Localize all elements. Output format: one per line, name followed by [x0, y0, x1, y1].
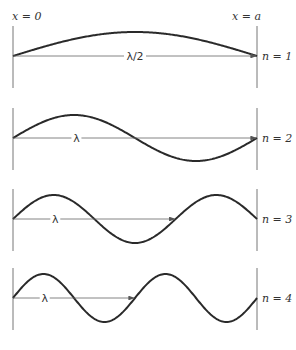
n2-label: n = 2 [262, 132, 292, 145]
right-boundary-label: x = a [232, 10, 261, 23]
wavelength-label: λ [41, 292, 48, 305]
panel-n4: λ [13, 268, 257, 330]
n3-label: n = 3 [262, 213, 292, 226]
n4-label: n = 4 [262, 292, 292, 305]
panel-n1: λ/2 [13, 26, 257, 88]
panel-n3: λ [13, 189, 257, 251]
wavelength-label: λ [52, 213, 59, 226]
standing-wave-curve [13, 274, 257, 322]
n1-label: n = 1 [262, 50, 292, 63]
wavelength-label: λ [73, 132, 80, 145]
left-boundary-label: x = 0 [12, 10, 41, 23]
standing-waves-diagram: λ/2λλλ [0, 0, 296, 350]
panel-n2: λ [13, 108, 257, 170]
wavelength-label: λ/2 [126, 50, 143, 63]
